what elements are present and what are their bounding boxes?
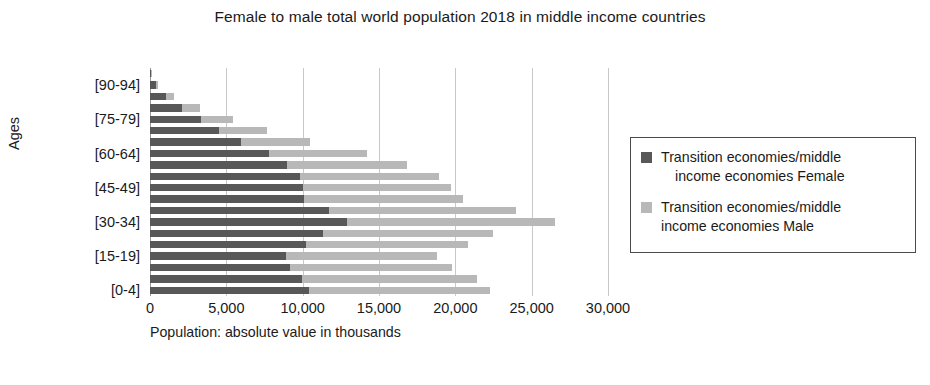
x-tick-label-25000: 25,000: [509, 300, 553, 317]
bar-row: [150, 93, 174, 101]
bar-segment-female: [150, 252, 286, 260]
bar-segment-male: [303, 184, 451, 192]
bar-segment-female: [150, 104, 182, 112]
bar-row: [150, 218, 555, 226]
x-tick-label-5000: 5,000: [208, 300, 244, 317]
bar-segment-female: [150, 138, 241, 146]
legend-item-male: Transition economies/middle income econo…: [641, 198, 907, 236]
population-pyramid-chart: Female to male total world population 20…: [0, 0, 930, 385]
legend-item-female: Transition economies/middle income econo…: [641, 148, 907, 186]
bar-row: [150, 138, 310, 146]
bar-segment-male: [166, 93, 174, 101]
y-tick-label-[45-49]: [45-49]: [95, 181, 140, 195]
bar-segment-female: [150, 173, 300, 181]
bar-segment-female: [150, 275, 302, 283]
bar-segment-female: [150, 150, 269, 158]
bar-row: [150, 81, 158, 89]
bar-segment-male: [329, 207, 517, 215]
bar-row: [150, 104, 200, 112]
bar-segment-female: [150, 116, 201, 124]
bar-row: [150, 207, 516, 215]
bar-segment-male: [323, 230, 494, 238]
bar-segment-male: [156, 81, 158, 89]
x-tick-label-20000: 20,000: [433, 300, 477, 317]
bar-segment-male: [302, 275, 478, 283]
y-tick-label-[75-79]: [75-79]: [95, 112, 140, 126]
bar-segment-female: [150, 161, 287, 169]
y-tick-label-[30-34]: [30-34]: [95, 215, 140, 229]
gridline-30000: [608, 68, 609, 296]
bar-row: [150, 127, 267, 135]
bar-segment-male: [287, 161, 408, 169]
bar-segment-female: [150, 264, 290, 272]
legend-label-male-line-1: Transition economies/middle: [661, 199, 841, 215]
bar-segment-male: [182, 104, 200, 112]
x-tick-label-15000: 15,000: [357, 300, 401, 317]
chart-title-line-1: Female to male total world population 20…: [214, 8, 637, 25]
bar-row: [150, 287, 490, 295]
bar-row: [150, 252, 437, 260]
y-tick-label-[15-19]: [15-19]: [95, 249, 140, 263]
bar-row: [150, 70, 152, 78]
legend-label-male: Transition economies/middle income econo…: [661, 198, 841, 236]
legend-label-female-line-1: Transition economies/middle: [661, 149, 841, 165]
bar-segment-female: [150, 241, 306, 249]
bar-row: [150, 150, 367, 158]
legend-label-female-line-2: income economies Female: [661, 167, 845, 186]
legend-swatch-female-icon: [641, 152, 652, 163]
x-axis-tick-labels: 05,00010,00015,00020,00025,00030,000: [150, 300, 620, 320]
y-tick-label-[60-64]: [60-64]: [95, 147, 140, 161]
bar-segment-male: [241, 138, 310, 146]
bar-row: [150, 184, 451, 192]
y-axis-tick-labels: [0-4][15-19][30-34][45-49][60-64][75-79]…: [0, 68, 146, 296]
bar-row: [150, 173, 439, 181]
bar-segment-female: [150, 195, 304, 203]
bar-segment-female: [150, 218, 347, 226]
plot-area: [150, 68, 608, 296]
x-axis-title: Population: absolute value in thousands: [150, 324, 401, 340]
bar-row: [150, 161, 407, 169]
legend-label-female: Transition economies/middle income econo…: [661, 148, 845, 186]
bar-segment-female: [150, 184, 303, 192]
bar-row: [150, 116, 233, 124]
bar-segment-female: [150, 287, 309, 295]
x-tick-label-30000: 30,000: [586, 300, 630, 317]
bar-segment-male: [269, 150, 367, 158]
bar-segment-male: [306, 241, 468, 249]
legend: Transition economies/middle income econo…: [630, 137, 916, 253]
bar-segment-male: [300, 173, 438, 181]
bar-segment-male: [347, 218, 555, 226]
bar-row: [150, 230, 493, 238]
bar-segment-male: [201, 116, 233, 124]
chart-title-line-2: countries: [642, 8, 706, 25]
bar-segment-female: [150, 207, 329, 215]
bar-row: [150, 275, 477, 283]
bar-row: [150, 195, 463, 203]
bar-segment-female: [150, 127, 219, 135]
bar-segment-female: [150, 230, 323, 238]
y-tick-label-[0-4]: [0-4]: [111, 283, 140, 297]
y-tick-label-[90-94]: [90-94]: [95, 78, 140, 92]
bar-segment-female: [150, 93, 166, 101]
chart-title: Female to male total world population 20…: [180, 6, 740, 27]
x-tick-label-10000: 10,000: [280, 300, 324, 317]
bar-segment-male: [219, 127, 267, 135]
bar-row: [150, 241, 468, 249]
bar-segment-male: [309, 287, 491, 295]
bar-segment-male: [290, 264, 452, 272]
bar-segment-male: [286, 252, 437, 260]
bar-row: [150, 264, 452, 272]
x-tick-label-0: 0: [146, 300, 154, 317]
bar-segment-male: [304, 195, 463, 203]
bar-series-group: [150, 68, 608, 296]
legend-swatch-male-icon: [641, 202, 652, 213]
legend-label-male-line-2: income economies Male: [661, 217, 841, 236]
